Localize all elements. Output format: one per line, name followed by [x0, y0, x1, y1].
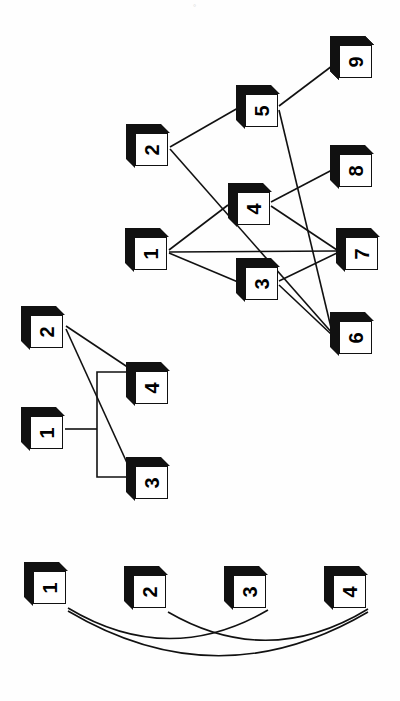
node-3[interactable]: 3	[126, 457, 170, 501]
figure-four-node-curved-graph: 1 2 3 4	[0, 540, 400, 701]
figure-four-node-bracket-graph: 2 4 1 3	[0, 290, 200, 520]
edge-3-7	[279, 253, 337, 281]
node-face: 6	[339, 321, 372, 354]
node-label: 5	[252, 105, 272, 116]
edge-5-9	[279, 66, 332, 106]
edge-1-7	[169, 251, 336, 252]
node-face: 9	[339, 45, 372, 78]
node-label: 3	[142, 477, 162, 488]
edge-2-3	[66, 329, 133, 476]
node-4[interactable]: 4	[126, 362, 170, 406]
node-label: 3	[252, 278, 272, 289]
node-label: 2	[140, 586, 160, 597]
node-face: 5	[245, 94, 278, 127]
node-face: 1	[30, 416, 63, 449]
node-face: 3	[135, 466, 168, 499]
node-face: 2	[30, 315, 63, 348]
node-face: 3	[233, 575, 266, 608]
node-label: 4	[340, 586, 360, 597]
node-label: 9	[346, 56, 366, 67]
edge-1-4	[169, 205, 228, 250]
edge-2-5	[170, 108, 238, 147]
edge-3-6	[279, 285, 332, 335]
node-label: 6	[346, 332, 366, 343]
node-4[interactable]: 4	[324, 566, 368, 610]
node-2[interactable]: 2	[126, 124, 170, 168]
node-face: 4	[237, 192, 270, 225]
node-face: 4	[333, 575, 366, 608]
node-label: 4	[142, 382, 162, 393]
node-9[interactable]: 9	[330, 36, 374, 80]
node-6[interactable]: 6	[330, 312, 374, 356]
diagram-canvas: °	[0, 0, 400, 701]
node-8[interactable]: 8	[330, 145, 374, 189]
edge-4-8	[271, 170, 332, 202]
node-7[interactable]: 7	[336, 228, 380, 272]
node-label: 1	[37, 427, 57, 438]
edge-5-6	[279, 110, 333, 336]
node-face: 4	[135, 371, 168, 404]
node-3[interactable]: 3	[224, 566, 268, 610]
node-label: 2	[37, 326, 57, 337]
node-label: 3	[240, 586, 260, 597]
node-1[interactable]: 1	[21, 407, 65, 451]
node-face: 2	[135, 133, 168, 166]
node-3[interactable]: 3	[236, 258, 280, 302]
node-4[interactable]: 4	[228, 183, 272, 227]
node-face: 2	[133, 575, 166, 608]
node-label: 1	[40, 582, 60, 593]
node-label: 7	[352, 248, 372, 259]
node-face: 3	[245, 267, 278, 300]
node-face: 7	[345, 237, 378, 270]
node-label: 2	[142, 144, 162, 155]
node-face: 8	[339, 154, 372, 187]
node-1[interactable]: 1	[125, 228, 169, 272]
node-label: 4	[244, 203, 264, 214]
node-5[interactable]: 5	[236, 85, 280, 129]
node-label: 8	[346, 165, 366, 176]
node-label: 1	[141, 248, 161, 259]
node-2[interactable]: 2	[21, 306, 65, 350]
node-face: 1	[33, 571, 66, 604]
edge-1-3	[169, 253, 238, 282]
node-2[interactable]: 2	[124, 566, 168, 610]
node-face: 1	[134, 237, 167, 270]
node-1[interactable]: 1	[24, 562, 68, 606]
edge-2-4	[66, 326, 132, 370]
